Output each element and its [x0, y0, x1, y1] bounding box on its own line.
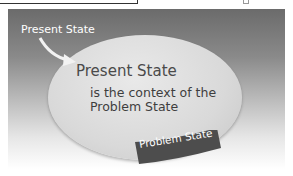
ellipse-title: Present State	[76, 62, 177, 80]
ellipse-body-line2: Problem State	[90, 100, 216, 114]
top-mark	[243, 0, 249, 4]
ellipse-body: is the context of the Problem State	[90, 86, 216, 114]
outer-label: Present State	[21, 23, 95, 36]
top-frame-box	[0, 0, 138, 4]
curved-arrow-icon	[38, 36, 78, 68]
ellipse-body-line1: is the context of the	[90, 86, 216, 100]
